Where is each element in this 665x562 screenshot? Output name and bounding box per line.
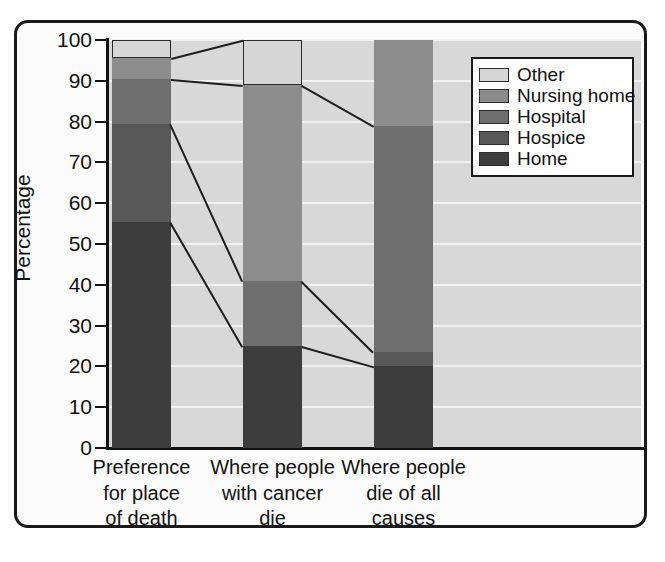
y-tick-mark xyxy=(95,80,106,82)
legend-item: Nursing home xyxy=(479,85,626,106)
legend-item: Home xyxy=(479,148,626,169)
bar-segment-hospital xyxy=(243,281,302,346)
y-tick-label: 30 xyxy=(36,315,92,336)
bar-stack xyxy=(243,40,302,448)
bar-segment-home xyxy=(374,366,433,448)
legend-swatch-icon xyxy=(479,89,509,103)
category-label-line: with cancer xyxy=(198,481,348,507)
category-label-line: die of all xyxy=(329,481,479,507)
bar-segment-hospice xyxy=(112,124,171,222)
bar-segment-hospital xyxy=(374,126,433,352)
legend-label: Other xyxy=(517,65,565,84)
legend-label: Home xyxy=(517,149,568,168)
bar-stack xyxy=(374,40,433,448)
y-tick-label: 100 xyxy=(36,29,92,50)
y-tick-mark xyxy=(95,406,106,408)
bar-segment-other xyxy=(112,40,171,58)
y-tick-label: 50 xyxy=(36,233,92,254)
legend-swatch-icon xyxy=(479,152,509,166)
y-tick-mark xyxy=(95,325,106,327)
bar-segment-nursing-home xyxy=(112,58,171,78)
bar-segment-home xyxy=(243,346,302,448)
y-tick-mark xyxy=(95,284,106,286)
y-tick-label: 40 xyxy=(36,274,92,295)
legend-swatch-icon xyxy=(479,110,509,124)
category-label-line: Where people xyxy=(198,455,348,481)
legend-label: Hospital xyxy=(517,107,586,126)
legend-item: Hospice xyxy=(479,127,626,148)
y-tick-mark xyxy=(95,161,106,163)
bar-stack xyxy=(112,40,171,448)
category-label-line: of death xyxy=(67,506,217,532)
y-tick-mark xyxy=(95,202,106,204)
legend-item: Hospital xyxy=(479,106,626,127)
legend-swatch-icon xyxy=(479,131,509,145)
y-tick-label: 60 xyxy=(36,192,92,213)
category-label-line: causes xyxy=(329,506,479,532)
y-tick-mark xyxy=(95,39,106,41)
legend: OtherNursing homeHospitalHospiceHome xyxy=(471,57,634,177)
bar-segment-nursing-home xyxy=(374,40,433,126)
bar-segment-hospital xyxy=(112,79,171,124)
y-tick-label: 20 xyxy=(36,355,92,376)
y-tick-mark xyxy=(95,365,106,367)
category-label: Where peoplewith cancerdie xyxy=(198,455,348,532)
y-axis-label: Percentage xyxy=(11,138,35,318)
bar-segment-home xyxy=(112,222,171,448)
y-tick-mark xyxy=(95,121,106,123)
category-label: Where peopledie of allcauses xyxy=(329,455,479,532)
legend-label: Hospice xyxy=(517,128,586,147)
category-label-line: Preference xyxy=(67,455,217,481)
y-tick-label: 90 xyxy=(36,70,92,91)
legend-swatch-icon xyxy=(479,68,509,82)
category-label-line: die xyxy=(198,506,348,532)
figure: 0102030405060708090100 Percentage Prefer… xyxy=(0,0,665,562)
y-tick-label: 80 xyxy=(36,111,92,132)
bar-segment-nursing-home xyxy=(243,85,302,281)
category-label: Preferencefor placeof death xyxy=(67,455,217,532)
y-axis-line xyxy=(106,38,109,450)
legend-label: Nursing home xyxy=(517,86,635,105)
legend-item: Other xyxy=(479,64,626,85)
bar-segment-hospice xyxy=(374,352,433,366)
y-tick-mark xyxy=(95,447,106,449)
category-label-line: Where people xyxy=(329,455,479,481)
bar-segment-other xyxy=(243,40,302,85)
category-label-line: for place xyxy=(67,481,217,507)
y-tick-mark xyxy=(95,243,106,245)
y-tick-label: 70 xyxy=(36,151,92,172)
y-tick-label: 10 xyxy=(36,396,92,417)
